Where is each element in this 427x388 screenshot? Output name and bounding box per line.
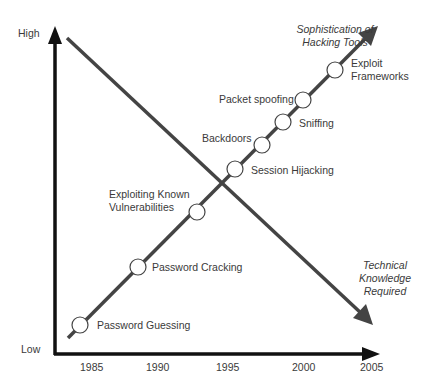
milestone-label-exploiting-vulnerabilities: Exploiting Known Vulnerabilities bbox=[109, 188, 190, 214]
milestone-circle-exploit-frameworks bbox=[327, 62, 343, 78]
technical-knowledge-title: Technical Knowledge Required bbox=[350, 259, 420, 298]
x-axis-arrowhead-icon bbox=[362, 347, 380, 361]
sophistication-title-line1: Sophistication of bbox=[270, 23, 400, 36]
x-tick-1990: 1990 bbox=[146, 361, 169, 374]
y-axis-arrowhead-icon bbox=[48, 26, 62, 44]
sophistication-title: Sophistication of Hacking Tools bbox=[270, 23, 400, 49]
milestone-label-password-guessing: Password Guessing bbox=[97, 319, 190, 332]
milestone-label-exploiting-line2: Vulnerabilities bbox=[109, 201, 190, 214]
milestone-label-exploit-line1: Exploit bbox=[351, 57, 409, 70]
y-axis-high-label: High bbox=[18, 27, 40, 40]
milestone-circle-packet-spoofing bbox=[295, 92, 311, 108]
technical-knowledge-title-line2: Knowledge bbox=[350, 272, 420, 285]
milestone-circle-password-cracking bbox=[130, 259, 146, 275]
x-tick-1985: 1985 bbox=[80, 361, 103, 374]
milestone-circle-exploiting-vulnerabilities bbox=[189, 204, 205, 220]
milestone-circle-sniffing bbox=[275, 114, 291, 130]
milestone-label-exploit-line2: Frameworks bbox=[351, 70, 409, 83]
milestone-label-sniffing: Sniffing bbox=[299, 117, 334, 130]
milestone-circle-session-hijacking bbox=[227, 161, 243, 177]
milestone-label-exploiting-line1: Exploiting Known bbox=[109, 188, 190, 201]
milestone-label-exploit-frameworks: Exploit Frameworks bbox=[351, 57, 409, 83]
milestone-label-password-cracking: Password Cracking bbox=[152, 261, 242, 274]
sophistication-title-line2: Hacking Tools bbox=[270, 36, 400, 49]
milestone-label-packet-spoofing: Packet spoofing bbox=[219, 93, 294, 106]
milestone-circle-password-guessing bbox=[72, 317, 88, 333]
y-axis-low-label: Low bbox=[21, 343, 40, 356]
technical-knowledge-title-line1: Technical bbox=[350, 259, 420, 272]
milestone-circle-backdoors bbox=[254, 137, 270, 153]
x-tick-2000: 2000 bbox=[292, 361, 315, 374]
milestone-label-session-hijacking: Session Hijacking bbox=[251, 164, 334, 177]
technical-knowledge-title-line3: Required bbox=[350, 285, 420, 298]
x-tick-1995: 1995 bbox=[216, 361, 239, 374]
milestone-label-backdoors: Backdoors bbox=[202, 132, 252, 145]
x-tick-2005: 2005 bbox=[360, 361, 383, 374]
